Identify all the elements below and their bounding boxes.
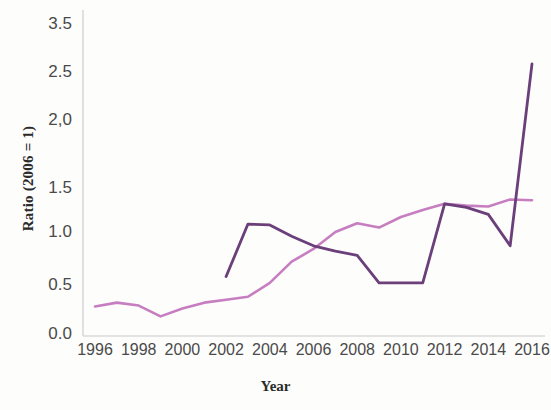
x-tick-label: 2016	[504, 341, 551, 359]
series-line-dark-purple-series	[226, 64, 532, 283]
series-line-light-pink-series	[95, 199, 532, 316]
chart-figure: Ratio (2006 = 1) 3.52.52,01.51.00.50.0 1…	[0, 0, 551, 410]
series-layer	[95, 64, 532, 317]
x-axis-tick-labels: 1996199820002002200420062008201020122014…	[0, 341, 551, 365]
x-axis-title: Year	[0, 378, 551, 395]
